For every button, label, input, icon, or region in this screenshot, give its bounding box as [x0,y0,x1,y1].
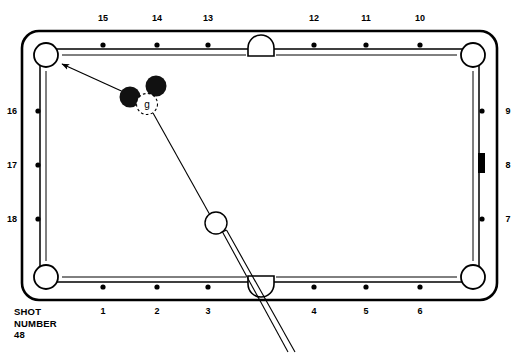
diamond-1 [100,284,105,289]
rail-label-right-8: 8 [505,160,510,170]
rail-label-left-18: 18 [7,214,17,224]
shot-number-caption: SHOT NUMBER 48 [14,306,57,341]
diamond-6 [417,284,422,289]
pocket-side-top [248,35,274,56]
diamond-11 [363,42,368,47]
rail-label-top-10: 10 [415,13,425,23]
pocket-bottom-right [461,265,485,289]
diamond-14 [154,42,159,47]
rail-label-left-17: 17 [7,160,17,170]
rail-label-top-15: 15 [98,13,108,23]
pocket-top-right [461,43,485,67]
diamond-10 [417,42,422,47]
diamond-17 [35,162,40,167]
rail-label-bottom-4: 4 [311,306,316,316]
cue-ball [205,212,227,234]
rail-label-right-7: 7 [505,214,510,224]
diamond-16 [35,108,40,113]
shot-caption-line-2: NUMBER [14,318,57,330]
rail-label-top-11: 11 [361,13,371,23]
diamond-12 [311,42,316,47]
diamond-13 [205,42,210,47]
diamond-8-bar-marker [478,153,485,173]
diamond-5 [363,284,368,289]
diamond-4 [311,284,316,289]
billiards-shot-diagram: g 15 14 13 12 11 10 1 2 3 4 5 6 16 17 18… [0,0,519,353]
pocket-top-left [34,43,58,67]
diamond-2 [154,284,159,289]
table-diagram-canvas [0,0,519,353]
shot-caption-line-1: SHOT [14,306,57,318]
shot-caption-line-3: 48 [14,329,57,341]
rail-label-bottom-2: 2 [154,306,159,316]
ghost-ball-label: g [144,99,150,110]
rail-label-right-9: 9 [505,106,510,116]
pocket-bottom-left [34,265,58,289]
rail-label-bottom-5: 5 [363,306,368,316]
rail-label-left-16: 16 [7,106,17,116]
rail-label-top-13: 13 [203,13,213,23]
rail-label-bottom-1: 1 [100,306,105,316]
rail-label-bottom-3: 3 [205,306,210,316]
diamond-15 [100,42,105,47]
rail-label-top-12: 12 [309,13,319,23]
diamond-18 [35,216,40,221]
rail-label-top-14: 14 [152,13,162,23]
rail-label-bottom-6: 6 [417,306,422,316]
diamond-3 [205,284,210,289]
diamond-9 [479,108,484,113]
diamond-7 [479,216,484,221]
